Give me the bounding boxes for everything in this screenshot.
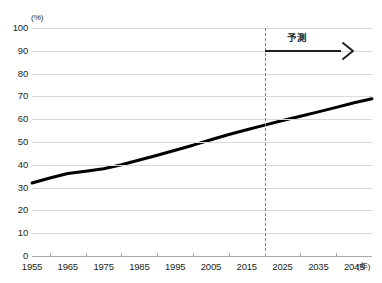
- x-tick-mark-2000: [193, 253, 194, 257]
- x-tick-label-1995: 1995: [155, 262, 195, 272]
- x-axis-line: [32, 256, 372, 257]
- y-axis-unit-label: (%): [31, 14, 43, 22]
- x-tick-mark-2040: [336, 253, 337, 257]
- x-tick-label-2045: 2045: [334, 262, 374, 272]
- gridline-y-30: [32, 188, 372, 189]
- gridline-y-10: [32, 233, 372, 234]
- x-tick-mark-2010: [229, 253, 230, 257]
- x-tick-label-1965: 1965: [48, 262, 88, 272]
- x-tick-label-2035: 2035: [298, 262, 338, 272]
- series-polyline: [32, 99, 372, 183]
- y-tick-label-40: 40: [2, 160, 28, 170]
- x-tick-mark-1960: [50, 253, 51, 257]
- x-tick-mark-1980: [121, 253, 122, 257]
- x-tick-mark-2030: [300, 253, 301, 257]
- gridline-y-40: [32, 165, 372, 166]
- y-tick-label-50: 50: [2, 137, 28, 147]
- y-tick-label-0: 0: [2, 251, 28, 261]
- x-tick-mark-1990: [157, 253, 158, 257]
- forecast-arrow-icon: [265, 33, 375, 63]
- gridline-y-100: [32, 28, 372, 29]
- y-tick-label-10: 10: [2, 228, 28, 238]
- y-tick-label-30: 30: [2, 183, 28, 193]
- y-tick-label-80: 80: [2, 69, 28, 79]
- x-tick-label-1985: 1985: [119, 262, 159, 272]
- gridline-y-80: [32, 74, 372, 75]
- chart-container: (%) (年) 予測 01020304050607080901001955196…: [0, 0, 382, 283]
- gridline-y-60: [32, 119, 372, 120]
- gridline-y-20: [32, 210, 372, 211]
- y-tick-label-100: 100: [2, 23, 28, 33]
- y-tick-label-20: 20: [2, 205, 28, 215]
- x-tick-label-1975: 1975: [84, 262, 124, 272]
- x-tick-label-1955: 1955: [12, 262, 52, 272]
- x-tick-mark-1970: [86, 253, 87, 257]
- x-tick-label-2005: 2005: [191, 262, 231, 272]
- x-tick-label-2015: 2015: [227, 262, 267, 272]
- gridline-y-50: [32, 142, 372, 143]
- y-tick-label-70: 70: [2, 91, 28, 101]
- x-tick-mark-2020: [265, 253, 266, 257]
- y-tick-label-60: 60: [2, 114, 28, 124]
- gridline-y-70: [32, 96, 372, 97]
- y-tick-label-90: 90: [2, 46, 28, 56]
- x-tick-label-2025: 2025: [263, 262, 303, 272]
